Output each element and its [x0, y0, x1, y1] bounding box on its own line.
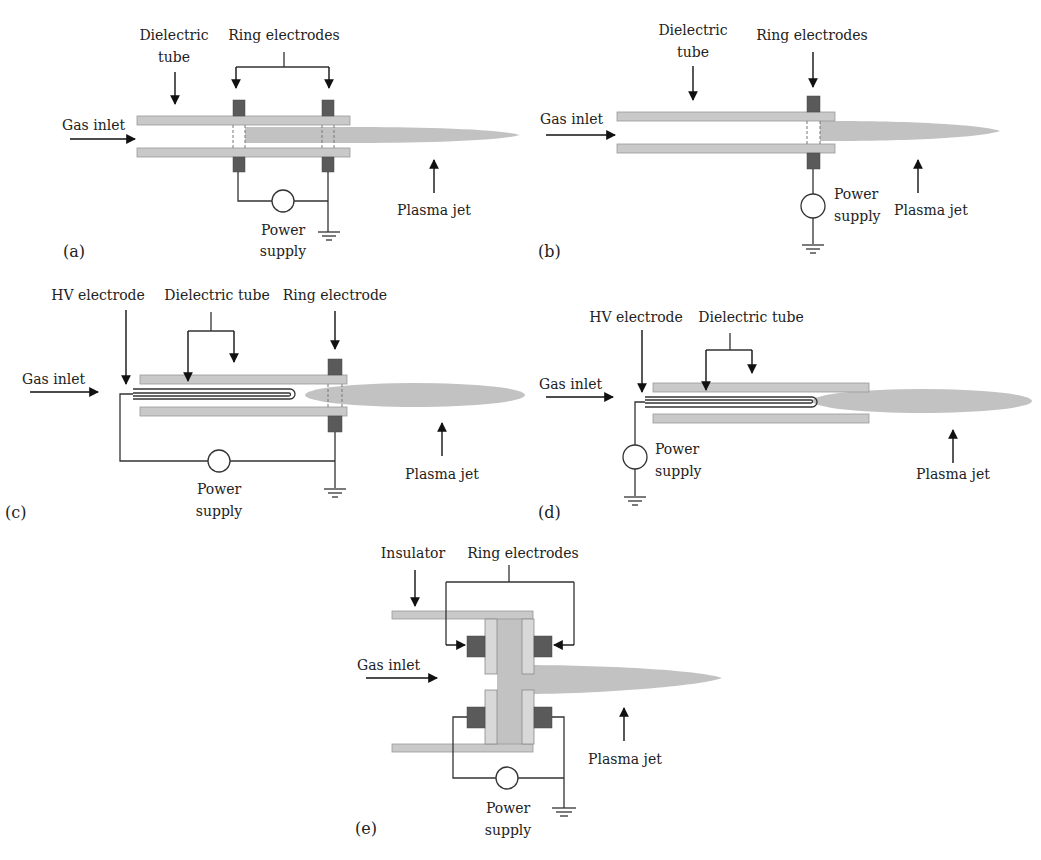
power-supply-symbol	[496, 767, 518, 789]
panel-tag: (e)	[355, 819, 377, 838]
label-plasma-jet: Plasma jet	[916, 466, 990, 482]
label-dielectric-tube: Dielectric	[139, 27, 208, 43]
dielectric-tube-top	[137, 116, 350, 125]
inner-wall-left-bottom	[485, 690, 497, 744]
dielectric-tube-bottom	[140, 407, 347, 416]
label-ring-electrodes: Ring electrodes	[756, 27, 868, 43]
dielectric-tube-top	[617, 112, 835, 121]
label-dielectric-tube: Dielectric tube	[164, 287, 270, 303]
ring-electrode-top-left	[467, 636, 485, 657]
label-gas-inlet: Gas inlet	[357, 657, 420, 673]
plasma-jet-shape	[305, 383, 525, 407]
power-supply-symbol	[801, 194, 825, 218]
label-ring-electrodes: Ring electrodes	[228, 27, 340, 43]
label-power-supply-2: supply	[196, 503, 243, 519]
hv-electrode-rod	[645, 397, 817, 407]
label-plasma-jet: Plasma jet	[894, 202, 968, 218]
label-ring-electrode: Ring electrode	[283, 287, 387, 303]
panel-tag: (c)	[5, 503, 26, 522]
plasma-jet-shape	[820, 121, 1000, 141]
label-dielectric-tube-2: tube	[158, 49, 190, 65]
panel-d: HV electrode Dielectric tube Gas inlet P…	[538, 309, 1032, 522]
ring-electrode-2-bottom	[322, 157, 334, 172]
label-insulator: Insulator	[381, 545, 446, 561]
ring-electrode-1-top	[233, 100, 245, 116]
label-power-supply-2: supply	[260, 243, 307, 259]
inner-wall-left-top	[485, 619, 497, 674]
ground-icon	[552, 808, 576, 816]
ring-electrode-top	[328, 359, 342, 375]
label-gas-inlet: Gas inlet	[539, 376, 602, 392]
ground-icon	[318, 232, 340, 240]
dielectric-tube-top	[140, 375, 347, 384]
label-plasma-jet: Plasma jet	[588, 751, 662, 767]
panel-c: HV electrode Dielectric tube Ring electr…	[5, 287, 525, 522]
label-dielectric-tube: Dielectric tube	[698, 309, 804, 325]
ground-icon	[802, 245, 824, 253]
dielectric-tube-top	[653, 383, 869, 392]
label-hv-electrode: HV electrode	[51, 287, 145, 303]
label-power-supply: Power	[486, 800, 531, 816]
label-power-supply-2: supply	[834, 208, 881, 224]
dielectric-tube-bottom	[617, 144, 835, 153]
label-power-supply: Power	[655, 441, 700, 457]
panel-e: Insulator Ring electrodes Gas inlet Powe…	[355, 545, 722, 838]
label-ring-electrodes: Ring electrodes	[467, 545, 579, 561]
power-supply-symbol	[272, 190, 294, 212]
plasma-jet-configurations-figure: Dielectric tube Ring electrodes Gas inle…	[0, 0, 1041, 860]
label-hv-electrode: HV electrode	[589, 309, 683, 325]
label-plasma-jet: Plasma jet	[405, 466, 479, 482]
dielectric-tube-bottom	[137, 148, 350, 157]
label-power-supply-2: supply	[655, 463, 702, 479]
ring-electrode-2-top	[322, 100, 334, 116]
label-gas-inlet: Gas inlet	[62, 117, 125, 133]
power-supply-symbol	[623, 445, 647, 469]
ring-electrode-top-right	[534, 636, 552, 657]
ring-electrode-bottom	[328, 416, 342, 432]
label-power-supply-2: supply	[485, 822, 532, 838]
label-gas-inlet: Gas inlet	[540, 111, 603, 127]
power-supply-symbol	[208, 450, 230, 472]
label-power-supply: Power	[197, 481, 242, 497]
panel-tag: (d)	[538, 503, 561, 522]
panel-b: Dielectric tube Ring electrodes Gas inle…	[538, 22, 1000, 261]
panel-a: Dielectric tube Ring electrodes Gas inle…	[62, 27, 520, 261]
ground-icon	[324, 489, 346, 497]
label-dielectric-tube-2: tube	[677, 44, 709, 60]
ground-icon	[624, 497, 646, 505]
panel-tag: (a)	[63, 242, 85, 261]
hv-electrode-rod	[133, 389, 295, 399]
panel-tag: (b)	[538, 242, 561, 261]
insulator-bottom	[392, 744, 533, 752]
ring-electrode-top	[807, 96, 820, 112]
ring-electrode-1-bottom	[233, 157, 245, 172]
ring-electrode-bottom-right	[534, 707, 552, 728]
label-gas-inlet: Gas inlet	[22, 371, 85, 387]
ring-electrode-bottom	[807, 153, 820, 169]
insulator-top	[392, 611, 533, 619]
plasma-jet-shape	[812, 389, 1032, 413]
inner-wall-right-bottom	[522, 690, 534, 744]
label-power-supply: Power	[261, 222, 306, 238]
label-plasma-jet: Plasma jet	[397, 202, 471, 218]
label-dielectric-tube: Dielectric	[658, 22, 727, 38]
label-power-supply: Power	[834, 186, 879, 202]
inner-wall-right-top	[522, 619, 534, 674]
plasma-jet-shape	[245, 127, 520, 143]
dielectric-tube-bottom	[653, 414, 869, 423]
ring-electrode-bottom-left	[467, 707, 485, 728]
